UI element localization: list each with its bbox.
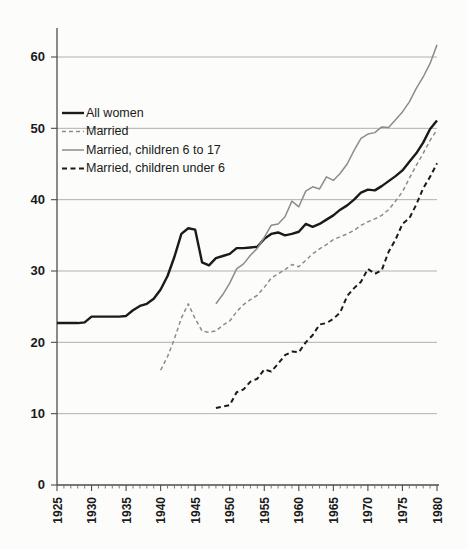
xtick-label-1975: 1975: [396, 497, 410, 524]
xtick-label-group-1975: 1975: [396, 497, 410, 524]
ytick-label-60: 60: [31, 49, 45, 64]
legend-label-2: Married, children 6 to 17: [86, 143, 221, 157]
xtick-label-1930: 1930: [85, 497, 99, 524]
xtick-label-1935: 1935: [120, 497, 134, 524]
ytick-labels-group: 0102030405060: [31, 49, 45, 492]
xtick-label-group-1950: 1950: [223, 497, 237, 524]
data-series-group: [57, 45, 437, 408]
series-line-2: [216, 45, 437, 304]
xtick-label-group-1970: 1970: [361, 497, 375, 524]
legend-item-1: Married: [62, 124, 128, 138]
xtick-label-group-1925: 1925: [51, 497, 65, 524]
legend-label-0: All women: [86, 106, 144, 120]
legend-item-3: Married, children under 6: [62, 161, 225, 175]
ytick-label-10: 10: [31, 406, 45, 421]
xtick-label-group-1935: 1935: [120, 497, 134, 524]
xtick-label-group-1955: 1955: [258, 497, 272, 524]
xtick-label-1960: 1960: [292, 497, 306, 524]
xtick-label-1940: 1940: [154, 497, 168, 524]
xtick-labels-group: 1925193019351940194519501955196019651970…: [51, 497, 445, 524]
xtick-label-1965: 1965: [327, 497, 341, 524]
legend-label-1: Married: [86, 124, 128, 138]
legend-item-2: Married, children 6 to 17: [62, 143, 221, 157]
ytick-label-50: 50: [31, 121, 45, 136]
xtick-label-group-1965: 1965: [327, 497, 341, 524]
legend: All womenMarriedMarried, children 6 to 1…: [62, 106, 225, 176]
xtick-label-group-1940: 1940: [154, 497, 168, 524]
legend-label-3: Married, children under 6: [86, 161, 225, 175]
xtick-label-group-1930: 1930: [85, 497, 99, 524]
xtick-label-group-1960: 1960: [292, 497, 306, 524]
ytick-label-40: 40: [31, 192, 45, 207]
xtick-label-1955: 1955: [258, 497, 272, 524]
ytick-label-20: 20: [31, 335, 45, 350]
xtick-label-1970: 1970: [361, 497, 375, 524]
xtick-label-group-1945: 1945: [189, 497, 203, 524]
xtick-label-1950: 1950: [223, 497, 237, 524]
xtick-marks-group: [57, 485, 437, 491]
xtick-label-1980: 1980: [431, 497, 445, 524]
xtick-label-group-1980: 1980: [431, 497, 445, 524]
ytick-label-0: 0: [38, 477, 45, 492]
axes-group: [57, 28, 439, 485]
xtick-label-1945: 1945: [189, 497, 203, 524]
line-chart: 0102030405060 19251930193519401945195019…: [0, 0, 468, 549]
ytick-label-30: 30: [31, 263, 45, 278]
legend-item-0: All women: [62, 106, 144, 120]
chart-canvas: 0102030405060 19251930193519401945195019…: [0, 0, 468, 549]
xtick-label-1925: 1925: [51, 497, 65, 524]
